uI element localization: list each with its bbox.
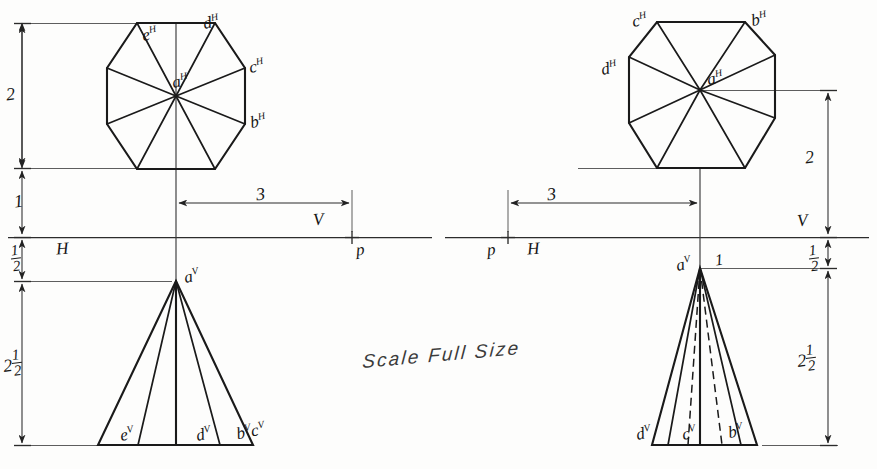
label-a-h-left: aH [170, 71, 189, 91]
label-c-h-left: cH [247, 56, 265, 76]
label-b-h-left: bH [248, 111, 267, 131]
left-dimension-chain-vertical [14, 23, 31, 446]
hidden-edge-c [688, 268, 700, 445]
label-a-v-right: aV [674, 254, 692, 274]
dim-value-right-2half: 212 [795, 342, 817, 376]
label-point-p-right: p [486, 240, 497, 261]
label-plane-v-left: V [312, 211, 324, 229]
drawing-canvas [0, 0, 877, 469]
label-plane-h-left: H [55, 240, 68, 258]
label-b-v-right: bV [726, 421, 744, 441]
label-d-h-right: dH [599, 58, 618, 78]
right-front-view-pyramid [652, 268, 757, 445]
label-plane-v-right: V [796, 212, 808, 230]
label-plane-h-right: H [526, 240, 539, 258]
dim-value-left-2half: 212 [1, 347, 23, 381]
label-e-h-left: eH [140, 24, 158, 44]
label-d-v-right: dV [634, 423, 652, 443]
right-top-view-octagon [629, 22, 775, 168]
label-a-h-right: aH [705, 68, 724, 88]
right-point-p-mark [501, 231, 515, 244]
label-b-h-right: bH [749, 9, 768, 29]
label-d-v-left: dV [194, 424, 212, 444]
right-dimension-chain-vertical [820, 91, 837, 446]
drawing-sheet: eH dH cH bH aH aV eV dV bVcV H V p 2 1 1… [0, 0, 877, 469]
right-extension-lines [508, 91, 838, 446]
label-c-h-right: cH [630, 10, 648, 30]
label-d-h-left: dH [201, 12, 220, 32]
hidden-edge-b [700, 268, 722, 445]
label-point-p-left: p [355, 240, 366, 261]
label-a-v-left: aV [182, 266, 200, 286]
